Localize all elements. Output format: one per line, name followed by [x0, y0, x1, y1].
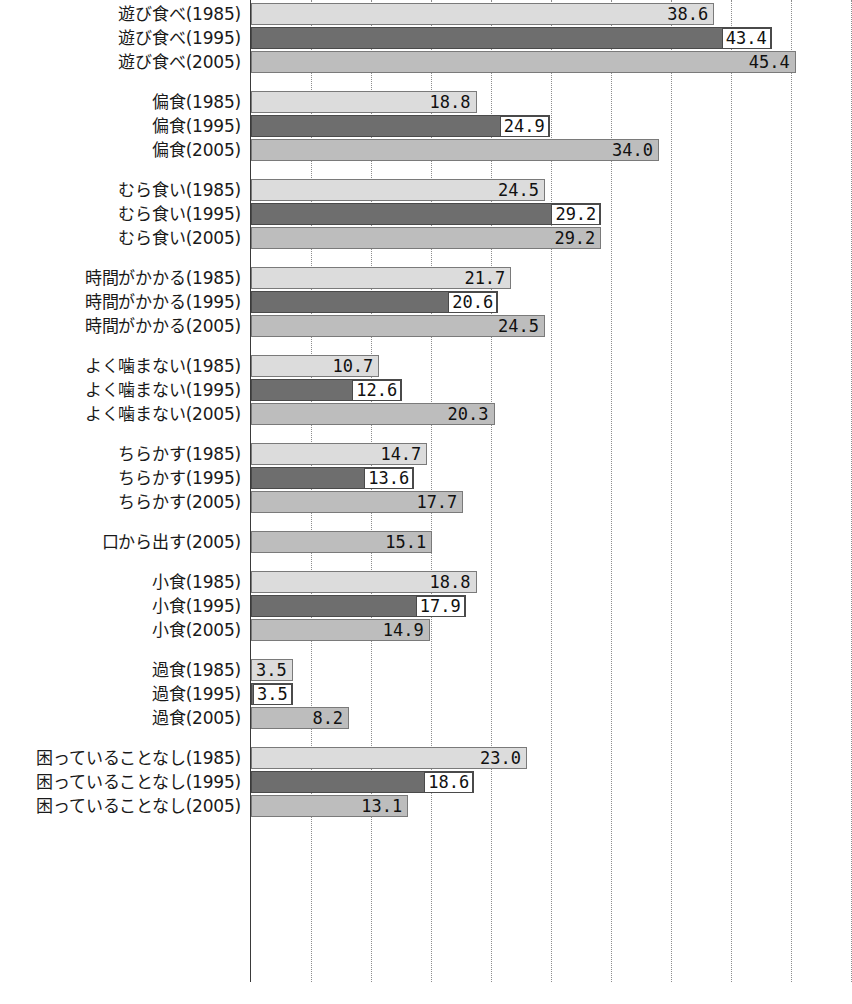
bar-row-label: むら食い(1985) [118, 178, 241, 202]
bar-row-label: ちらかす(1985) [118, 442, 241, 466]
bar-value-label: 17.9 [416, 596, 465, 617]
bar-row: 遊び食べ(1985)38.6 [0, 2, 852, 26]
bar-row: ちらかす(1995)13.6 [0, 466, 852, 490]
bar-value-label: 15.1 [381, 532, 430, 552]
bar-row: 偏食(1995)24.9 [0, 114, 852, 138]
bar-row-label: よく噛まない(1985) [85, 354, 241, 378]
bar-row: ちらかす(1985)14.7 [0, 442, 852, 466]
bar-value-label: 34.0 [608, 140, 657, 160]
bar-row-label: よく噛まない(1995) [85, 378, 241, 402]
bar-row-label: 過食(2005) [152, 706, 241, 730]
bar-row: よく噛まない(2005)20.3 [0, 402, 852, 426]
bar-value-label: 18.6 [424, 772, 473, 793]
bar-row: よく噛まない(1995)12.6 [0, 378, 852, 402]
bar-row: よく噛まない(1985)10.7 [0, 354, 852, 378]
bar-row: 過食(1985)3.5 [0, 658, 852, 682]
bar-row: むら食い(1995)29.2 [0, 202, 852, 226]
bar-row-label: 時間がかかる(1995) [85, 290, 241, 314]
bar-row: 口から出す(2005)15.1 [0, 530, 852, 554]
bar-value-label: 10.7 [328, 356, 377, 376]
bar-row: むら食い(1985)24.5 [0, 178, 852, 202]
bar-row: 時間がかかる(2005)24.5 [0, 314, 852, 338]
bar-row: 過食(1995)3.5 [0, 682, 852, 706]
bar-value-label: 38.6 [663, 4, 712, 24]
bar-row-label: 遊び食べ(1985) [118, 2, 241, 26]
bar-row: 時間がかかる(1995)20.6 [0, 290, 852, 314]
bar-value-label: 18.8 [426, 92, 475, 112]
bar-row: 小食(1995)17.9 [0, 594, 852, 618]
bar-row: 遊び食べ(2005)45.4 [0, 50, 852, 74]
bar-1995 [251, 203, 601, 225]
bar-value-label: 24.5 [494, 180, 543, 200]
bar-value-label: 17.7 [412, 492, 461, 512]
bar-1995 [251, 27, 772, 49]
bar-row-label: ちらかす(1995) [118, 466, 241, 490]
bar-2005 [251, 227, 601, 249]
bar-row-label: 偏食(1995) [152, 114, 241, 138]
bar-value-label: 3.5 [253, 684, 292, 705]
bar-row: 過食(2005)8.2 [0, 706, 852, 730]
bar-1985 [251, 3, 714, 25]
bar-row-label: むら食い(1995) [118, 202, 241, 226]
bar-value-label: 43.4 [722, 28, 771, 49]
bar-row: 小食(1985)18.8 [0, 570, 852, 594]
bar-2005 [251, 139, 659, 161]
bar-row-label: 遊び食べ(1995) [118, 26, 241, 50]
bar-row-label: よく噛まない(2005) [85, 402, 241, 426]
bar-row: 偏食(2005)34.0 [0, 138, 852, 162]
bar-row: 時間がかかる(1985)21.7 [0, 266, 852, 290]
bar-value-label: 3.5 [252, 660, 291, 680]
bar-row-label: 小食(1985) [152, 570, 241, 594]
bar-row-label: 過食(1995) [152, 682, 241, 706]
bar-value-label: 24.9 [500, 116, 549, 137]
bar-2005 [251, 51, 796, 73]
bar-row-label: 過食(1985) [152, 658, 241, 682]
bar-value-label: 20.6 [448, 292, 497, 313]
bar-row-label: 偏食(2005) [152, 138, 241, 162]
bar-row-label: 時間がかかる(2005) [85, 314, 241, 338]
bar-value-label: 13.6 [364, 468, 413, 489]
bar-row: 遊び食べ(1995)43.4 [0, 26, 852, 50]
bar-row: 困っていることなし(1985)23.0 [0, 746, 852, 770]
bar-row-label: 困っていることなし(1995) [36, 770, 241, 794]
bar-row-label: むら食い(2005) [118, 226, 241, 250]
bar-row: 小食(2005)14.9 [0, 618, 852, 642]
bar-value-label: 8.2 [308, 708, 347, 728]
bar-row: むら食い(2005)29.2 [0, 226, 852, 250]
bar-value-label: 23.0 [476, 748, 525, 768]
bar-value-label: 45.4 [745, 52, 794, 72]
bar-row-label: 時間がかかる(1985) [85, 266, 241, 290]
bar-value-label: 14.7 [376, 444, 425, 464]
bar-row-label: 遊び食べ(2005) [118, 50, 241, 74]
bar-row-label: ちらかす(2005) [118, 490, 241, 514]
cut-off-footnote [0, 990, 852, 1004]
bar-value-label: 29.2 [550, 228, 599, 248]
bar-row-label: 困っていることなし(1985) [36, 746, 241, 770]
horizontal-bar-chart: 遊び食べ(1985)38.6遊び食べ(1995)43.4遊び食べ(2005)45… [0, 0, 852, 1004]
bar-row-label: 小食(2005) [152, 618, 241, 642]
bar-row: 困っていることなし(1995)18.6 [0, 770, 852, 794]
bar-row-label: 小食(1995) [152, 594, 241, 618]
bar-value-label: 24.5 [494, 316, 543, 336]
bar-row-label: 困っていることなし(2005) [36, 794, 241, 818]
bar-value-label: 13.1 [357, 796, 406, 816]
bar-value-label: 20.3 [444, 404, 493, 424]
bar-value-label: 18.8 [426, 572, 475, 592]
bar-value-label: 14.9 [379, 620, 428, 640]
bar-row-label: 口から出す(2005) [102, 530, 241, 554]
bar-row: ちらかす(2005)17.7 [0, 490, 852, 514]
bar-value-label: 21.7 [460, 268, 509, 288]
bar-row-label: 偏食(1985) [152, 90, 241, 114]
bar-row: 困っていることなし(2005)13.1 [0, 794, 852, 818]
bar-row: 偏食(1985)18.8 [0, 90, 852, 114]
bar-value-label: 12.6 [352, 380, 401, 401]
bar-value-label: 29.2 [551, 204, 600, 225]
